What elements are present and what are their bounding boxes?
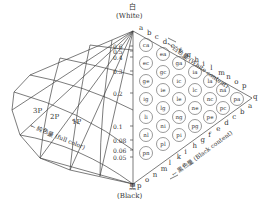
white-letter: i xyxy=(202,60,204,68)
solid-label-1p: 1P xyxy=(72,118,81,126)
color-cell-label: ng xyxy=(175,114,183,121)
color-cell-label: ea xyxy=(160,51,167,57)
white-letter: g xyxy=(187,51,191,59)
scale-value: 0.1 xyxy=(113,123,123,131)
color-cell-label: ie xyxy=(160,87,165,93)
color-cell-label: ca xyxy=(143,42,150,48)
color-cell-label: nc xyxy=(207,96,214,102)
white-letter: p xyxy=(242,82,246,90)
black-letter: a xyxy=(248,102,252,110)
color-cell-label: ga xyxy=(176,60,184,67)
color-cell-label: ig xyxy=(143,96,149,103)
white-letter: h xyxy=(195,56,200,64)
black-label-en: (Black) xyxy=(117,192,142,200)
white-letter: b xyxy=(147,29,151,37)
white-letter: e xyxy=(171,42,175,50)
white-letter: d xyxy=(163,38,167,46)
color-cell-label: pn xyxy=(142,150,150,157)
black-label: 黒 xyxy=(129,183,136,191)
black-letter: g xyxy=(200,136,204,144)
black-letter: f xyxy=(208,131,211,139)
color-cell-label: lc xyxy=(193,87,198,93)
white-label-en: (White) xyxy=(116,12,142,20)
color-cell-label: nl xyxy=(143,132,149,138)
black-letter: e xyxy=(216,125,220,133)
solid-label-3p: 3P xyxy=(33,107,42,115)
color-cell-label: li xyxy=(144,114,148,120)
scale-value: 0.3 xyxy=(113,68,123,76)
color-cell-label: ge xyxy=(143,78,150,85)
scale-value: 0.05 xyxy=(113,154,126,162)
color-cell-label: pa xyxy=(234,96,242,103)
black-letter: b xyxy=(240,108,244,116)
black-letter: h xyxy=(193,142,198,150)
scale-value: 0.4 xyxy=(113,54,123,62)
black-letter: m xyxy=(161,165,168,173)
scale-value: 0.2 xyxy=(113,90,123,98)
white-letter: c xyxy=(155,33,159,41)
black-letter: n xyxy=(153,171,158,179)
color-cell-label: pe xyxy=(207,114,214,121)
white-label: 白 xyxy=(129,3,136,11)
black-letter: p xyxy=(137,182,141,190)
color-cell-label: gc xyxy=(160,69,167,76)
apex-q: q xyxy=(253,93,257,101)
black-letter: c xyxy=(232,113,236,121)
black-letter: l xyxy=(169,159,171,167)
white-letter: n xyxy=(226,73,231,81)
color-cell-label: le xyxy=(176,96,181,102)
color-cell-label: ec xyxy=(143,60,149,66)
color-cell-label: ni xyxy=(160,123,166,129)
color-cell-label: ic xyxy=(177,78,182,84)
color-cell-label: pc xyxy=(220,105,227,112)
color-cell-label: pg xyxy=(191,123,199,130)
white-letter: a xyxy=(139,24,143,32)
color-cell-label: ne xyxy=(192,105,199,111)
black-letter: o xyxy=(145,176,149,184)
solid-label-2p: 2P xyxy=(50,113,59,121)
scale-value: 0.08 xyxy=(113,137,126,145)
black-letter: i xyxy=(185,148,187,156)
black-letter: d xyxy=(224,119,228,127)
color-cell-label: pi xyxy=(176,132,182,139)
white-letter: o xyxy=(234,78,238,86)
color-cell-label: lg xyxy=(160,105,166,112)
white-letter: f xyxy=(179,47,182,55)
white-letter: l xyxy=(210,64,212,72)
ostwald-diagram: caecgeiglinlpneagcielgniplgaiclengpiialc… xyxy=(0,0,266,202)
black-letter: k xyxy=(177,153,181,161)
color-cell-label: pl xyxy=(160,141,166,148)
white-letter: m xyxy=(218,69,225,77)
